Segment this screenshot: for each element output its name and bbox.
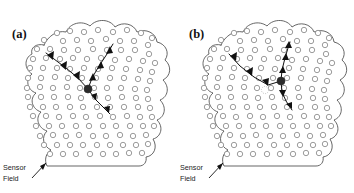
sensor-field-figure: (a) Sensor Field (0, 0, 354, 193)
panel-b-hub-node (277, 77, 285, 85)
panel-a-label: (a) (12, 27, 27, 41)
panel-b-annotation-line1: Sensor (180, 163, 203, 172)
panel-a-hub-node (84, 85, 92, 93)
panel-a-annotation-line1: Sensor (3, 163, 26, 172)
panel-a-annotation-line2: Field (3, 174, 19, 183)
panel-b-annotation-line2: Field (180, 174, 196, 183)
panel-b-label: (b) (189, 27, 204, 41)
